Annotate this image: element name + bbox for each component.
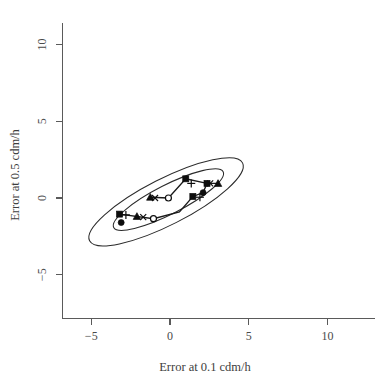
series-filled-square [117,176,210,217]
marker-open-circle [165,195,171,201]
marker-filled-square [190,193,196,199]
marker-filled-square [204,180,210,186]
outer-ellipse [79,142,253,261]
marker-filled-square [183,176,189,182]
chart-canvas: −50510 −50510 Error at 0.1 cdm/h Error a… [0,0,381,383]
marker-filled-circle [200,190,206,196]
marker-open-circle [150,216,156,222]
x-axis-ticks: −50510 [85,319,334,344]
scatter-plot-figure: −50510 −50510 Error at 0.1 cdm/h Error a… [0,0,381,383]
y-tick-label: −5 [35,268,49,281]
x-tick-label: 5 [246,329,252,343]
marker-filled-square [117,211,123,217]
y-axis-ticks: −50510 [35,39,63,282]
axes-group [63,23,376,319]
y-tick-label: 5 [35,118,49,124]
x-axis-title: Error at 0.1 cdm/h [159,360,251,374]
y-tick-label: 0 [35,195,49,201]
x-tick-label: −5 [85,329,98,343]
confidence-ellipses [79,142,253,261]
x-tick-label: 10 [322,329,334,343]
y-axis-title: Error at 0.5 cdm/h [8,128,22,220]
x-tick-label: 0 [167,329,173,343]
y-tick-label: 10 [35,39,49,51]
marker-filled-circle [118,220,124,226]
